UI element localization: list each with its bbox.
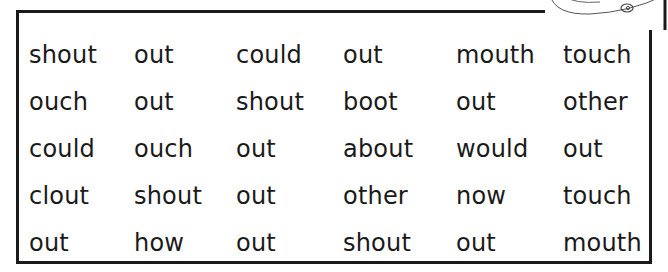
- word-cell: out: [563, 135, 603, 163]
- word-cell: out: [134, 88, 174, 116]
- word-cell: shout: [236, 88, 304, 116]
- word-cell: ouch: [29, 88, 88, 116]
- word-cell: other: [563, 88, 628, 116]
- word-cell: shout: [134, 182, 202, 210]
- word-cell: boot: [343, 88, 398, 116]
- word-cell: shout: [29, 41, 97, 69]
- word-cell: shout: [343, 229, 411, 257]
- word-cell: touch: [563, 182, 632, 210]
- word-cell: other: [343, 182, 408, 210]
- word-cell: out: [343, 41, 383, 69]
- word-cell: out: [236, 182, 276, 210]
- word-cell: out: [456, 229, 496, 257]
- word-cell: out: [236, 229, 276, 257]
- word-cell: about: [343, 135, 413, 163]
- word-cell: out: [236, 135, 276, 163]
- word-cell: could: [29, 135, 95, 163]
- word-cell: touch: [563, 41, 632, 69]
- word-cell: out: [29, 229, 69, 257]
- word-cell: now: [456, 182, 506, 210]
- word-cell: out: [456, 88, 496, 116]
- word-cell: mouth: [456, 41, 535, 69]
- word-cell: clout: [29, 182, 89, 210]
- cartoon-illustration-icon: [545, 0, 668, 30]
- word-cell: out: [134, 41, 174, 69]
- word-cell: mouth: [563, 229, 642, 257]
- word-cell: would: [456, 135, 528, 163]
- word-grid-box: shout out could out mouth touch ouch out…: [16, 10, 652, 264]
- word-cell: ouch: [134, 135, 193, 163]
- word-cell: could: [236, 41, 302, 69]
- word-cell: how: [134, 229, 184, 257]
